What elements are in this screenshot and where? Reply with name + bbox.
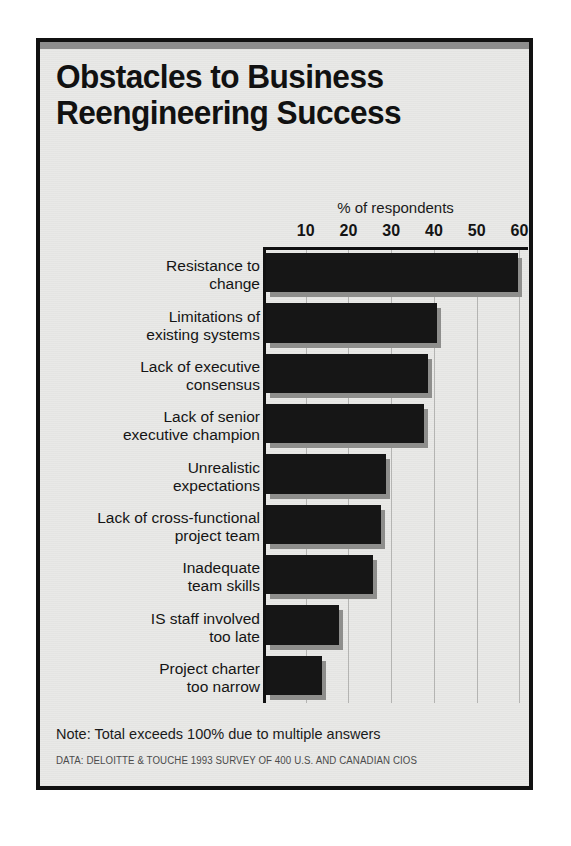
category-label-line: Lack of cross-functional — [80, 509, 260, 527]
chart-note: Note: Total exceeds 100% due to multiple… — [56, 726, 381, 742]
y-axis-line — [263, 247, 266, 703]
category-label-line: executive champion — [80, 426, 260, 444]
chart-title-line-2: Reengineering Success — [56, 94, 475, 130]
category-label-5: Lack of cross-functionalproject team — [80, 509, 260, 545]
category-label-line: project team — [80, 527, 260, 545]
bar — [266, 354, 428, 393]
category-label-line: Lack of senior — [80, 408, 260, 426]
bar — [266, 605, 339, 644]
bar — [266, 505, 381, 544]
category-label-line: Lack of executive — [80, 358, 260, 376]
bar-slot — [266, 451, 528, 501]
category-label-2: Lack of executiveconsensus — [80, 358, 260, 394]
bar — [266, 656, 322, 695]
bar — [266, 404, 424, 443]
bar — [266, 454, 386, 493]
x-tick-label-30: 30 — [371, 222, 411, 240]
bar-slot — [266, 552, 528, 602]
category-label-8: Project chartertoo narrow — [80, 660, 260, 696]
x-tick-label-60: 60 — [499, 222, 539, 240]
category-label-line: change — [80, 275, 260, 293]
card-top-accent-bar — [40, 42, 529, 49]
x-axis-label: % of respondents — [263, 199, 528, 216]
category-label-line: too narrow — [80, 678, 260, 696]
category-label-0: Resistance tochange — [80, 257, 260, 293]
bar — [266, 555, 373, 594]
category-label-3: Lack of seniorexecutive champion — [80, 408, 260, 444]
bar-slot — [266, 401, 528, 451]
category-label-1: Limitations ofexisting systems — [80, 308, 260, 344]
x-tick-label-10: 10 — [286, 222, 326, 240]
bar-slot — [266, 602, 528, 652]
bar-slot — [266, 502, 528, 552]
chart-title: Obstacles to Business Reengineering Succ… — [56, 58, 475, 130]
bar-slot — [266, 250, 528, 300]
category-label-line: existing systems — [80, 326, 260, 344]
category-label-line: too late — [80, 628, 260, 646]
category-label-6: Inadequateteam skills — [80, 559, 260, 595]
category-label-line: Unrealistic — [80, 459, 260, 477]
bar — [266, 303, 437, 342]
x-tick-label-50: 50 — [457, 222, 497, 240]
chart-title-line-1: Obstacles to Business — [56, 58, 475, 94]
category-label-line: Inadequate — [80, 559, 260, 577]
category-label-line: IS staff involved — [80, 610, 260, 628]
chart-card: Obstacles to Business Reengineering Succ… — [36, 38, 533, 790]
bar-slot — [266, 351, 528, 401]
category-label-line: Limitations of — [80, 308, 260, 326]
category-label-line: Project charter — [80, 660, 260, 678]
bar-series — [266, 250, 528, 703]
x-axis-tick-labels: 102030405060 — [263, 222, 528, 242]
category-label-line: consensus — [80, 376, 260, 394]
category-label-line: team skills — [80, 577, 260, 595]
category-label-7: IS staff involvedtoo late — [80, 610, 260, 646]
bar-slot — [266, 300, 528, 350]
category-label-line: expectations — [80, 477, 260, 495]
bar — [266, 253, 518, 292]
chart-card-background: Obstacles to Business Reengineering Succ… — [40, 42, 529, 786]
x-tick-label-20: 20 — [328, 222, 368, 240]
chart-source: DATA: DELOITTE & TOUCHE 1993 SURVEY OF 4… — [56, 755, 417, 766]
bar-slot — [266, 653, 528, 703]
category-label-4: Unrealisticexpectations — [80, 459, 260, 495]
category-labels: Resistance tochangeLimitations ofexistin… — [80, 250, 260, 703]
plot-area — [263, 247, 528, 703]
category-label-line: Resistance to — [80, 257, 260, 275]
x-tick-label-40: 40 — [414, 222, 454, 240]
